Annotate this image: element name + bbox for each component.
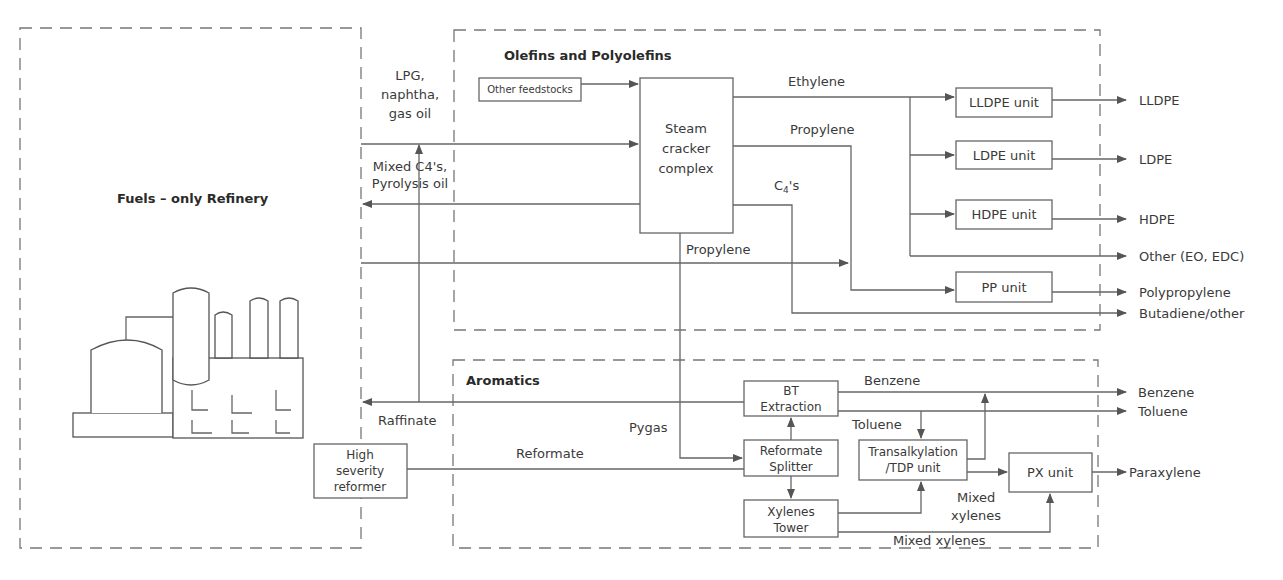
mixed-xylenes-label-1b: xylenes (951, 508, 1001, 523)
transalkylation-to-benzene-arrow (967, 394, 985, 459)
product-other: Other (EO, EDC) (1139, 249, 1244, 264)
product-paraxylene: Paraxylene (1129, 465, 1201, 480)
reformer-label-1: High (346, 448, 374, 462)
propylene-top-label: Propylene (790, 122, 854, 137)
transalkylation-label-2: /TDP unit (886, 461, 941, 475)
c4s-label: C4's (774, 178, 799, 195)
product-toluene: Toluene (1137, 404, 1188, 419)
refinery-plant-icon (73, 288, 303, 438)
xylenes-tower-label-2: Tower (773, 521, 809, 535)
raffinate-label: Raffinate (378, 413, 437, 428)
mixed-xylenes-label-2: Mixed xylenes (893, 533, 986, 548)
product-butadiene: Butadiene/other (1139, 306, 1245, 321)
c4s-suffix: 's (789, 178, 800, 193)
pygas-arrow (680, 233, 742, 458)
pp-unit-label: PP unit (982, 280, 1027, 295)
bt-extraction-label-1: BT (783, 384, 799, 398)
feed-label-3: gas oil (389, 106, 431, 121)
mixed-xylenes-label-1a: Mixed (957, 490, 995, 505)
lldpe-unit-label: LLDPE unit (969, 95, 1039, 110)
feed-label-2: naphtha, (381, 87, 439, 102)
ldpe-unit-label: LDPE unit (973, 148, 1036, 163)
olefins-title: Olefins and Polyolefins (504, 48, 672, 63)
aromatics-title: Aromatics (466, 373, 540, 388)
c4s-main: C (774, 178, 783, 193)
xylenes-tower-label-1: Xylenes (767, 505, 814, 519)
product-ldpe: LDPE (1139, 152, 1172, 167)
steam-cracker-label-2: cracker (662, 141, 711, 156)
propylene-refinery-label: Propylene (686, 242, 750, 257)
steam-cracker-label-3: complex (658, 161, 713, 176)
reformate-label: Reformate (516, 446, 584, 461)
propylene-to-pp-arrow (733, 146, 954, 290)
steam-cracker-label-1: Steam (665, 121, 707, 136)
product-hdpe: HDPE (1139, 212, 1175, 227)
reformate-splitter-label-2: Splitter (769, 460, 813, 474)
product-polypropylene: Polypropylene (1139, 285, 1231, 300)
product-lldpe: LLDPE (1139, 93, 1180, 108)
pygas-label: Pygas (629, 420, 668, 435)
other-feedstocks-label: Other feedstocks (487, 84, 573, 95)
ethylene-label: Ethylene (788, 74, 845, 89)
reformer-label-2: severity (336, 464, 384, 478)
return-label-1: Mixed C4's, (373, 159, 447, 174)
toluene-internal-label: Toluene (851, 417, 902, 432)
product-benzene: Benzene (1138, 385, 1194, 400)
px-unit-label: PX unit (1027, 465, 1073, 480)
process-flow-diagram: Fuels – only Refinery Olefins and Polyol… (0, 0, 1283, 580)
xylenes-to-transalkylation-arrow (838, 482, 921, 513)
hdpe-unit-label: HDPE unit (971, 207, 1036, 222)
benzene-internal-label: Benzene (864, 373, 920, 388)
c4s-to-butadiene-arrow (733, 205, 1126, 313)
transalkylation-label-1: Transalkylation (867, 445, 958, 459)
feed-label-1: LPG, (395, 68, 424, 83)
return-label-2: Pyrolysis oil (372, 176, 448, 191)
bt-extraction-label-2: Extraction (760, 400, 821, 414)
reformer-label-3: reformer (334, 480, 386, 494)
reformate-splitter-label-1: Reformate (760, 444, 823, 458)
refinery-title: Fuels – only Refinery (117, 191, 269, 206)
